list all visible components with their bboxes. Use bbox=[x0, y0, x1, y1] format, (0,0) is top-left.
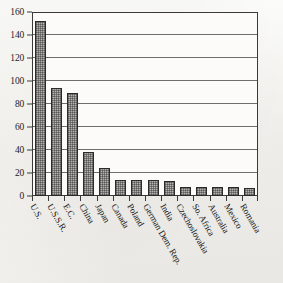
x-axis-labels: U.S.U.S.S.R.E.C.ChinaJapanCanadaPolandGe… bbox=[32, 202, 283, 283]
bar bbox=[164, 181, 175, 196]
y-tick-label-160: 160 bbox=[10, 7, 24, 17]
bar bbox=[180, 187, 191, 196]
y-tick-label-60: 60 bbox=[15, 122, 24, 132]
x-tick-mark bbox=[161, 196, 162, 201]
x-tick-mark bbox=[257, 196, 258, 201]
bar bbox=[99, 168, 110, 196]
x-tick-mark bbox=[113, 196, 114, 201]
x-tick-mark bbox=[226, 196, 227, 201]
x-axis-label: U.S. bbox=[29, 202, 45, 221]
x-tick-mark bbox=[32, 196, 33, 201]
bar bbox=[35, 21, 46, 196]
bar bbox=[196, 187, 207, 196]
x-tick-mark bbox=[193, 196, 194, 201]
y-tick-label-140: 140 bbox=[10, 30, 24, 40]
x-tick-mark bbox=[80, 196, 81, 201]
x-axis-label: Romania bbox=[239, 202, 264, 235]
x-tick-mark bbox=[64, 196, 65, 201]
y-tick-label-0: 0 bbox=[19, 191, 24, 201]
x-tick-mark bbox=[97, 196, 98, 201]
y-tick-label-120: 120 bbox=[10, 53, 24, 63]
x-axis-label: Japan bbox=[93, 202, 112, 224]
x-tick-mark bbox=[210, 196, 211, 201]
bar bbox=[244, 188, 255, 196]
bar bbox=[148, 180, 159, 196]
x-tick-mark bbox=[48, 196, 49, 201]
bar bbox=[228, 187, 239, 196]
x-tick-mark bbox=[242, 196, 243, 201]
bar bbox=[131, 180, 142, 196]
y-axis: 020406080100120140160 bbox=[0, 0, 32, 196]
bar bbox=[115, 180, 126, 196]
x-tick-mark bbox=[129, 196, 130, 201]
bar bbox=[51, 88, 62, 196]
y-tick-label-100: 100 bbox=[10, 76, 24, 86]
x-tick-mark bbox=[145, 196, 146, 201]
x-tick-mark bbox=[177, 196, 178, 201]
y-tick-label-80: 80 bbox=[15, 99, 24, 109]
bar-series bbox=[32, 12, 258, 196]
chart-screenshot: 020406080100120140160 U.S.U.S.S.R.E.C.Ch… bbox=[0, 0, 283, 283]
bar bbox=[212, 187, 223, 196]
bar bbox=[67, 93, 78, 197]
y-tick-label-40: 40 bbox=[15, 145, 24, 155]
y-tick-label-20: 20 bbox=[15, 168, 24, 178]
bar bbox=[83, 152, 94, 196]
